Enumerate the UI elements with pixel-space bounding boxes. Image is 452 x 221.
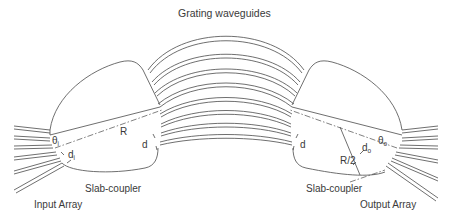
slab-coupler-left-label: Slab-coupler	[85, 184, 141, 194]
grating-waveguides	[148, 36, 304, 145]
awg-drawing	[0, 0, 452, 221]
theta-i-label: θi	[52, 136, 59, 148]
theta-o-label: θo	[378, 136, 387, 148]
r-half-dash	[350, 170, 385, 182]
radius-label-r-half: R/2	[340, 156, 356, 166]
awg-diagram: Grating waveguides R R/2 d d θi di θo do…	[0, 0, 452, 221]
radius-label-r: R	[120, 127, 127, 137]
grating-waveguides-title: Grating waveguides	[178, 8, 271, 19]
d-i-label: di	[68, 150, 75, 162]
output-waveguides	[386, 126, 438, 201]
d-o-label: do	[362, 143, 371, 155]
spacing-label-d-right: d	[300, 140, 306, 150]
spacing-label-d-left: d	[142, 140, 148, 150]
left-radius-line	[50, 107, 160, 135]
right-radius-line	[292, 107, 402, 135]
slab-coupler-right-label: Slab-coupler	[306, 184, 362, 194]
r-half-line	[340, 127, 360, 175]
input-array-label: Input Array	[34, 200, 82, 210]
output-array-label: Output Array	[360, 200, 416, 210]
